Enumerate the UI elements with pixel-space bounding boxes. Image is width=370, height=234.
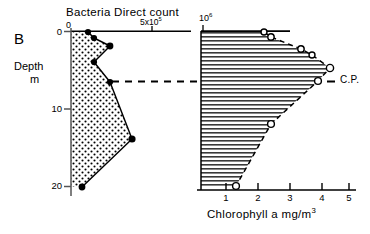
depth-axis-title: Depth xyxy=(14,60,43,72)
bacteria-axis-max-label: 5x105 xyxy=(140,17,162,27)
bacteria-axis-max-exponent: 5 xyxy=(158,16,161,22)
chlorophyll-tick-label-4: 4 xyxy=(315,192,329,203)
left-panel-bacteria xyxy=(64,26,191,196)
chlorophyll-top-label: 106 xyxy=(199,13,212,23)
depth-tick-label-0: 0 xyxy=(44,26,62,37)
cp-line-label: C.P. xyxy=(340,74,359,85)
chlorophyll-top-label-base: 10 xyxy=(199,13,209,23)
right-panel-chlorophyll xyxy=(197,25,356,190)
chlorophyll-axis-title-text: Chlorophyll a mg/m xyxy=(207,208,311,220)
bacteria-axis-min-label: 0 xyxy=(66,20,71,30)
chlorophyll-tick-label-3: 3 xyxy=(283,192,297,203)
figure-container: B Bacteria Direct count 0 5x105 106 Dept… xyxy=(0,0,370,234)
panel-label: B xyxy=(14,30,25,47)
depth-axis-unit: m xyxy=(30,73,39,85)
chlorophyll-tick-label-2: 2 xyxy=(251,192,265,203)
chlorophyll-top-label-exponent: 6 xyxy=(209,11,212,18)
chlorophyll-tick-label-1: 1 xyxy=(219,192,233,203)
chlorophyll-x-ticks xyxy=(226,183,349,190)
depth-tick-label-20: 20 xyxy=(44,180,62,191)
chlorophyll-axis-title: Chlorophyll a mg/m3 xyxy=(207,208,316,220)
chlorophyll-axis-title-exponent: 3 xyxy=(311,206,316,215)
bacteria-axis-max-mantissa: 5x10 xyxy=(140,17,158,27)
left-panel-title: Bacteria Direct count xyxy=(66,6,179,18)
depth-tick-label-10: 10 xyxy=(44,103,62,114)
chlorophyll-tick-label-5: 5 xyxy=(342,192,356,203)
